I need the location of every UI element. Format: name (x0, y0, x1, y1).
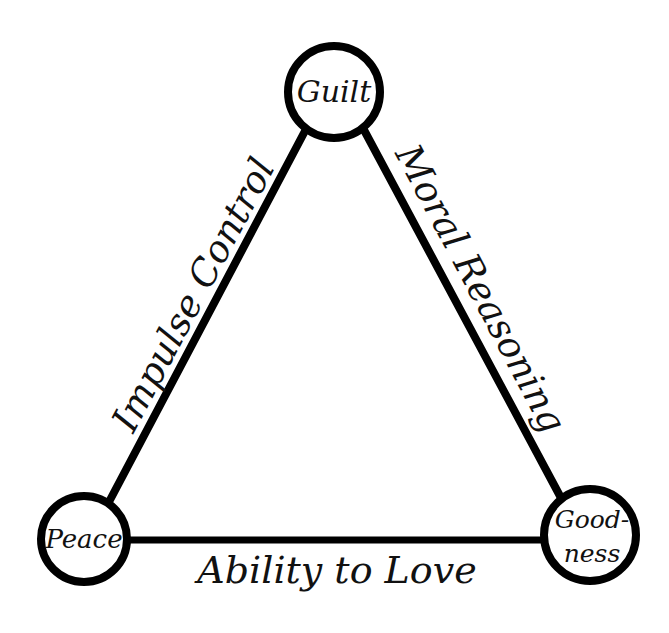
edge-line-moral-reasoning (364, 130, 560, 496)
edge-label-impulse-control: Impulse Control (103, 151, 284, 439)
edge-line-impulse-control (110, 131, 305, 500)
edge-label-ability-to-love: Ability to Love (194, 548, 476, 592)
node-label-goodness-line2: ness (564, 539, 621, 568)
node-label-peace: Peace (44, 524, 122, 554)
edge-label-moral-reasoning: Moral Reasoning (386, 136, 575, 439)
triangle-diagram: Guilt Peace Good- ness Impulse Control M… (0, 0, 669, 633)
triangle-nodes (41, 46, 636, 582)
diagram-canvas: Guilt Peace Good- ness Impulse Control M… (0, 0, 669, 633)
edge-labels: Impulse Control Moral Reasoning Ability … (103, 136, 575, 591)
node-label-goodness-line1: Good- (555, 505, 630, 534)
node-labels: Guilt Peace Good- ness (44, 74, 629, 568)
node-label-guilt: Guilt (297, 74, 372, 109)
